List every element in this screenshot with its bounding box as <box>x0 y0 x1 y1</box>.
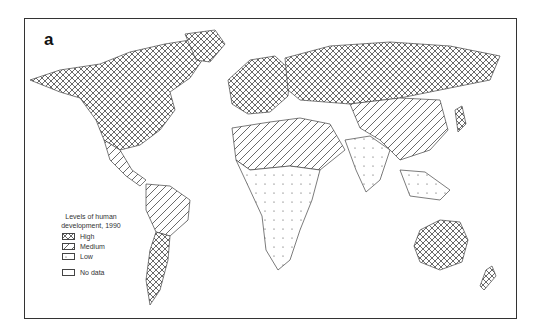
australia-region <box>414 220 468 270</box>
panel-label: a <box>44 30 53 50</box>
crosshatch-swatch-icon <box>62 233 75 240</box>
diagonal-swatch-icon <box>62 243 75 250</box>
new-zealand-region <box>480 266 496 290</box>
southeast-asia-region <box>400 170 450 200</box>
south-asia-region <box>345 136 390 192</box>
north-africa-region <box>232 118 345 170</box>
legend-item-high: High <box>62 233 136 240</box>
japan-region <box>455 106 466 132</box>
europe-region <box>228 56 290 114</box>
legend: Levels of human development, 1990 High M… <box>48 212 136 276</box>
blank-swatch-icon <box>62 269 75 276</box>
north-america-region <box>30 40 205 150</box>
world-map <box>0 0 539 334</box>
legend-item-medium: Medium <box>62 243 136 250</box>
sub-saharan-africa-region <box>236 160 320 270</box>
legend-item-no-data: No data <box>62 269 136 276</box>
dots-swatch-icon <box>62 253 75 260</box>
legend-title: Levels of human development, 1990 <box>46 212 136 230</box>
south-america-north-region <box>146 184 190 236</box>
legend-item-low: Low <box>62 253 136 260</box>
south-america-south-region <box>146 232 170 305</box>
russia-region <box>285 42 500 104</box>
